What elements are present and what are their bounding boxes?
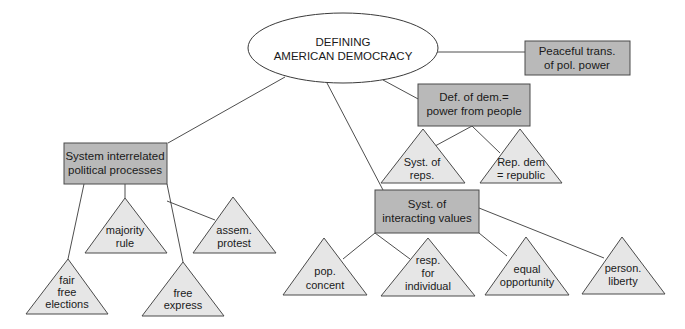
assem-label-line-2: protest <box>217 237 251 249</box>
triangle-republic: Rep. dem = republic <box>480 129 562 183</box>
equality-label-line-2: opportunity <box>500 276 555 288</box>
root-label-line-1: DEFINING <box>316 36 371 48</box>
triangle-pop-consent: pop. concent <box>283 238 367 295</box>
system-label-line-2: political processes <box>68 164 162 176</box>
root-node: DEFINING AMERICAN DEMOCRACY <box>248 13 438 83</box>
connector-values-equality <box>479 233 507 256</box>
assem-label-line-1: assem. <box>216 224 251 236</box>
connector-root-definition <box>383 80 420 100</box>
connector-definition-republic <box>472 126 500 153</box>
majority-label-line-1: majority <box>106 224 145 236</box>
values-label-line-2: interacting values <box>382 212 472 224</box>
majority-label-line-2: rule <box>116 237 134 249</box>
triangle-personal-liberty: person. liberty <box>582 237 665 294</box>
concept-map-diagram: DEFINING AMERICAN DEMOCRACY Peaceful tra… <box>0 0 685 329</box>
connector-values-liberty <box>479 208 604 258</box>
connector-values-responsibility <box>375 233 410 259</box>
triangle-assem-protest: assem. protest <box>193 197 276 253</box>
responsibility-label-line-1: resp. <box>416 254 440 266</box>
peaceful-label-line-2: of pol. power <box>544 59 610 71</box>
reps-label-line-2: reps. <box>410 169 434 181</box>
values-label-line-1: Syst. of <box>408 198 447 210</box>
equality-label-line-1: equal <box>514 263 541 275</box>
responsibility-label-line-2: for <box>422 267 435 279</box>
triangle-fair-free-elections: fair free elections <box>26 259 108 314</box>
consent-label-line-2: concent <box>306 279 345 291</box>
system-label-line-1: System interrelated <box>65 150 164 162</box>
elections-label-line-3: elections <box>45 298 89 310</box>
consent-label-line-1: pop. <box>314 265 335 277</box>
connector-values-consent <box>343 233 375 259</box>
connector-system-express <box>167 184 183 262</box>
triangle-free-express: free express <box>142 262 224 316</box>
elections-label-line-1: fair <box>59 274 75 286</box>
peaceful-label-line-1: Peaceful trans. <box>539 45 616 57</box>
definition-label-line-2: power from people <box>426 105 521 117</box>
reps-label-line-1: Syst. of <box>404 156 442 168</box>
liberty-label-line-1: person. <box>605 262 642 274</box>
connector-system-elections <box>68 184 84 259</box>
triangle-resp-individual: resp. for individual <box>381 238 475 296</box>
box-peaceful-transfer: Peaceful trans. of pol. power <box>525 41 630 75</box>
triangle-equal-opportunity: equal opportunity <box>485 237 569 295</box>
root-label-line-2: AMERICAN DEMOCRACY <box>274 50 413 62</box>
express-label-line-2: express <box>164 299 203 311</box>
box-interacting-values: Syst. of interacting values <box>375 190 479 233</box>
connector-root-system <box>168 77 285 143</box>
root-ellipse <box>248 13 438 83</box>
republic-label-line-1: Rep. dem <box>497 156 545 168</box>
republic-label-line-2: = republic <box>497 169 546 181</box>
liberty-label-line-2: liberty <box>608 275 638 287</box>
box-definition: Def. of dem.= power from people <box>418 84 530 126</box>
box-system-processes: System interrelated political processes <box>64 143 167 184</box>
triangle-majority-rule: majority rule <box>85 198 167 253</box>
connector-root-values <box>327 83 383 190</box>
definition-label-line-1: Def. of dem.= <box>439 91 509 103</box>
elections-label-line-2: free <box>58 286 77 298</box>
express-label-line-1: free <box>174 287 193 299</box>
responsibility-label-line-3: individual <box>405 280 451 292</box>
